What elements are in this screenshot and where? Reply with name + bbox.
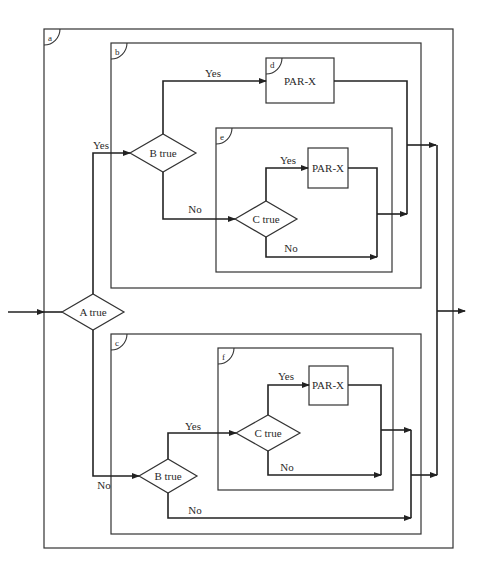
svg-text:C true: C true [252, 213, 279, 225]
edge-label-b-upper-no: No [188, 203, 202, 215]
par-x-e-label: PAR-X [312, 162, 344, 174]
edge-label-b-lower-no: No [188, 504, 202, 516]
block-d-tag: d [270, 60, 275, 70]
block-c-tag: c [115, 338, 119, 348]
svg-text:C true: C true [254, 427, 281, 439]
svg-text:B true: B true [149, 147, 176, 159]
par-x-d-label: PAR-X [284, 75, 316, 87]
block-e-tag: e [220, 132, 224, 142]
edge-label-c-upper-no: No [284, 242, 298, 254]
block-b-tag: b [115, 47, 120, 57]
par-x-f-label: PAR-X [312, 379, 344, 391]
par-x-e-box: PAR-X [308, 148, 348, 188]
block-e: e [216, 128, 392, 272]
svg-text:A true: A true [79, 306, 106, 318]
edge-label-b-upper-yes: Yes [205, 67, 221, 79]
edge-label-c-lower-no: No [280, 461, 294, 473]
block-a-tag: a [48, 33, 52, 43]
edge-label-c-lower-yes: Yes [278, 370, 294, 382]
decision-c-true-upper: C true [235, 201, 297, 237]
decision-c-true-lower: C true [236, 415, 300, 451]
edge-label-c-upper-yes: Yes [280, 154, 296, 166]
block-d: d PAR-X [266, 58, 334, 103]
edge-label-a-yes: Yes [93, 139, 109, 151]
svg-text:B true: B true [154, 470, 181, 482]
decision-a-true: A true [62, 294, 124, 330]
edge-label-a-no: No [97, 479, 111, 491]
block-f: f [218, 348, 393, 490]
decision-b-true-upper: B true [130, 134, 196, 172]
decision-b-true-lower: B true [139, 459, 197, 493]
edge-label-b-lower-yes: Yes [185, 420, 201, 432]
flowchart-diagram: a b d PAR-X e PAR-X c f PAR-X [0, 0, 491, 577]
par-x-f-box: PAR-X [309, 366, 348, 405]
block-f-tag: f [222, 352, 225, 362]
